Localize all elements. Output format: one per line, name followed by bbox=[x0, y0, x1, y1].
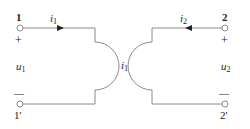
left-minus-sign: — bbox=[13, 88, 25, 99]
transformer-diagram: 1 + — 1' u1 i1 2 + — 2' u2 i2 i1 bbox=[0, 0, 250, 129]
right-coil-semicircle bbox=[128, 42, 152, 90]
right-minus-sign: — bbox=[218, 88, 230, 99]
terminal-2prime-circle[interactable] bbox=[222, 101, 228, 107]
left-coil-semicircle bbox=[95, 42, 119, 90]
terminal-1prime-label: 1' bbox=[14, 109, 22, 121]
terminal-1prime-circle[interactable] bbox=[17, 101, 23, 107]
left-port bbox=[17, 25, 119, 107]
current-i1-label: i1 bbox=[50, 12, 57, 26]
terminal-2-circle[interactable] bbox=[222, 25, 228, 31]
current-i1-arrow-icon bbox=[57, 25, 64, 31]
voltage-u2-label: u2 bbox=[221, 60, 231, 74]
right-plus-sign: + bbox=[221, 33, 228, 47]
terminal-1-label: 1 bbox=[16, 11, 22, 23]
terminal-2-label: 2 bbox=[222, 11, 228, 23]
current-i2-label: i2 bbox=[180, 12, 187, 26]
right-port bbox=[128, 25, 228, 107]
terminal-2prime-label: 2' bbox=[220, 109, 228, 121]
voltage-u1-label: u1 bbox=[16, 60, 26, 74]
left-plus-sign: + bbox=[15, 33, 22, 47]
center-i1-label: i1 bbox=[121, 59, 128, 73]
terminal-1-circle[interactable] bbox=[17, 25, 23, 31]
